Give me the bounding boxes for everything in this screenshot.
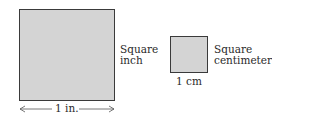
square-centimeter-label-line2: centimeter [214, 55, 272, 66]
inch-dimension-label: 1 in. [55, 103, 78, 114]
centimeter-dimension-label: 1 cm [176, 76, 202, 87]
square-centimeter-label: Square centimeter [214, 44, 272, 66]
square-centimeter-shape [170, 36, 208, 73]
